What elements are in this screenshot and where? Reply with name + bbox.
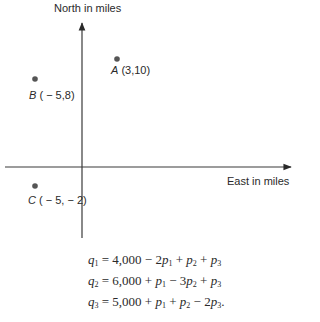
point-b-dot: [32, 76, 38, 82]
sub: 1: [168, 259, 172, 268]
point-b-label: B ( − 5,8): [29, 89, 75, 101]
sub: 2: [193, 259, 197, 268]
y-axis-label: North in miles: [54, 2, 121, 14]
sub: 3: [217, 280, 221, 289]
op: −: [169, 273, 176, 288]
end: .: [221, 294, 224, 309]
sub: 2: [193, 280, 197, 289]
point-a-coords: (3,10): [121, 64, 150, 76]
op: −: [194, 294, 201, 309]
constant: 6,000: [112, 273, 141, 288]
x-axis-label: East in miles: [227, 175, 289, 187]
point-c-label: C ( − 5, − 2): [28, 194, 87, 206]
op: −: [145, 252, 152, 267]
lhs-sub: 1: [95, 259, 99, 268]
lhs-sub: 3: [95, 301, 99, 310]
point-b-name: B: [29, 89, 36, 101]
op: +: [200, 252, 207, 267]
sub: 1: [162, 280, 166, 289]
point-a-name: A: [111, 64, 118, 76]
op: +: [169, 294, 176, 309]
point-a-label: A (3,10): [111, 64, 150, 76]
point-b-coords: ( − 5,8): [39, 89, 74, 101]
constant: 4,000: [112, 252, 141, 267]
equation-2: q2 = 6,000 + p1 − 3p2 + p3: [88, 273, 221, 289]
sub: 3: [217, 259, 221, 268]
op: +: [145, 273, 152, 288]
op: +: [200, 273, 207, 288]
point-c-coords: ( − 5, − 2): [39, 194, 87, 206]
equation-1: q1 = 4,000 − 2p1 + p2 + p3: [88, 252, 221, 268]
op: +: [145, 294, 152, 309]
op: +: [176, 252, 183, 267]
lhs-sub: 2: [95, 280, 99, 289]
constant: 5,000: [112, 294, 141, 309]
sub: 1: [162, 301, 166, 310]
point-c-name: C: [28, 194, 36, 206]
point-c-dot: [32, 183, 38, 189]
point-a-dot: [114, 56, 120, 62]
sub: 2: [186, 301, 190, 310]
equation-3: q3 = 5,000 + p1 + p2 − 2p3.: [88, 294, 224, 310]
